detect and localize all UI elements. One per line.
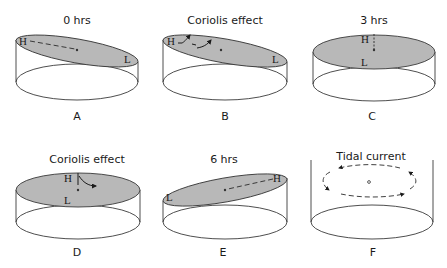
container-base-ellipse xyxy=(313,67,435,101)
container-base-ellipse xyxy=(163,64,287,100)
container-base-ellipse xyxy=(16,64,138,100)
center-point xyxy=(224,189,226,191)
low-label: L xyxy=(64,194,71,206)
center-point xyxy=(220,49,222,51)
amphidromic-point xyxy=(368,181,371,184)
panel-d-label: D xyxy=(73,246,81,259)
panel-c: 3 hrs H L C xyxy=(313,14,435,123)
high-label: H xyxy=(167,35,175,47)
panel-e: 6 hrs H L E xyxy=(161,153,289,259)
panel-e-title: 6 hrs xyxy=(210,153,238,166)
center-point xyxy=(77,189,79,191)
flat-water-surface xyxy=(313,35,435,69)
panel-f-label: F xyxy=(370,246,376,259)
panel-b-label: B xyxy=(221,110,229,123)
low-label: L xyxy=(272,53,279,65)
panel-b-title: Coriolis effect xyxy=(187,14,263,27)
panel-c-label: C xyxy=(368,110,376,123)
panel-a: 0 hrs H L A xyxy=(14,14,140,123)
panel-b: Coriolis effect H L B xyxy=(161,14,289,123)
low-label: L xyxy=(166,191,173,203)
rotary-current-arrow-right xyxy=(409,172,416,189)
rotary-current-arrow-top xyxy=(339,165,400,168)
high-label: H xyxy=(361,33,369,45)
container-base-ellipse xyxy=(16,205,140,239)
rotary-current-arrow-bottom xyxy=(341,194,404,197)
panel-d: Coriolis effect H L D xyxy=(16,153,140,259)
center-point xyxy=(373,49,375,51)
tidal-rotation-diagram: 0 hrs H L A Coriolis effect H L B 3 hrs xyxy=(0,0,447,268)
panel-d-title: Coriolis effect xyxy=(49,153,125,166)
container-base-ellipse xyxy=(163,205,287,239)
panel-a-title: 0 hrs xyxy=(63,14,91,27)
center-point xyxy=(76,49,78,51)
panel-c-title: 3 hrs xyxy=(360,14,388,27)
high-label: H xyxy=(64,172,72,184)
container-base-ellipse xyxy=(311,205,433,239)
panel-f: Tidal current F xyxy=(311,150,433,259)
panel-a-label: A xyxy=(73,110,81,123)
tilted-water-surface xyxy=(161,28,289,74)
rotary-current-arrow-left xyxy=(323,172,330,190)
high-label: H xyxy=(273,172,281,184)
panel-f-title: Tidal current xyxy=(335,150,406,163)
high-label: H xyxy=(19,35,27,47)
low-label: L xyxy=(124,53,131,65)
panel-e-label: E xyxy=(220,246,227,259)
low-label: L xyxy=(361,56,368,68)
